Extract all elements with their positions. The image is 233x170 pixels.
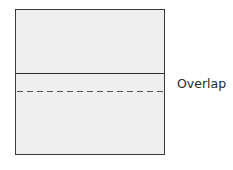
overlap-label: Overlap xyxy=(177,76,226,91)
overlap-top-edge-line xyxy=(16,73,164,74)
overlap-fold-dashed-line xyxy=(17,91,163,92)
sheet-rectangle xyxy=(15,9,165,155)
